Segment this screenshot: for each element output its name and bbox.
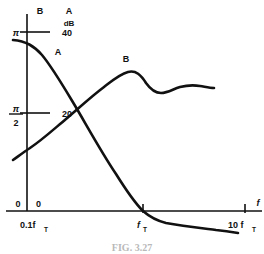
y-tick-label-pi: π — [13, 28, 20, 38]
x-tick-label-0p1ft-subscript: T — [44, 226, 48, 233]
curve-label-a: A — [55, 47, 62, 57]
y-tick-label-zero-phase: 0 — [15, 199, 20, 209]
x-axis-title: f — [257, 198, 261, 208]
y-axis-left-title: B — [37, 6, 44, 16]
bode-plot-svg: B A dB f π π 2 0 40 20 0 0.1f T f T 10 f… — [0, 0, 264, 254]
y-tick-label-0db: 0 — [36, 199, 41, 209]
y-tick-label-40db: 40 — [62, 28, 72, 38]
figure-caption: FIG. 3.27 — [0, 242, 264, 253]
curve-label-b: B — [123, 54, 130, 64]
y-axis-right-title: A — [66, 6, 73, 16]
y-tick-label-pi-over-2-numerator: π — [13, 104, 20, 114]
x-tick-label-10ft-subscript: T — [252, 226, 256, 233]
x-tick-label-10ft: 10 f — [228, 220, 245, 230]
x-tick-label-ft: f — [137, 220, 141, 230]
y-tick-label-20db: 20 — [62, 109, 72, 119]
x-tick-label-ft-subscript: T — [143, 226, 147, 233]
x-tick-label-0p1ft: 0.1f — [20, 220, 37, 230]
figure-root: B A dB f π π 2 0 40 20 0 0.1f T f T 10 f… — [0, 0, 264, 254]
curve-b-phase — [13, 72, 214, 160]
y-tick-label-pi-over-2-denominator: 2 — [13, 118, 18, 128]
y-axis-right-units: dB — [64, 19, 75, 28]
